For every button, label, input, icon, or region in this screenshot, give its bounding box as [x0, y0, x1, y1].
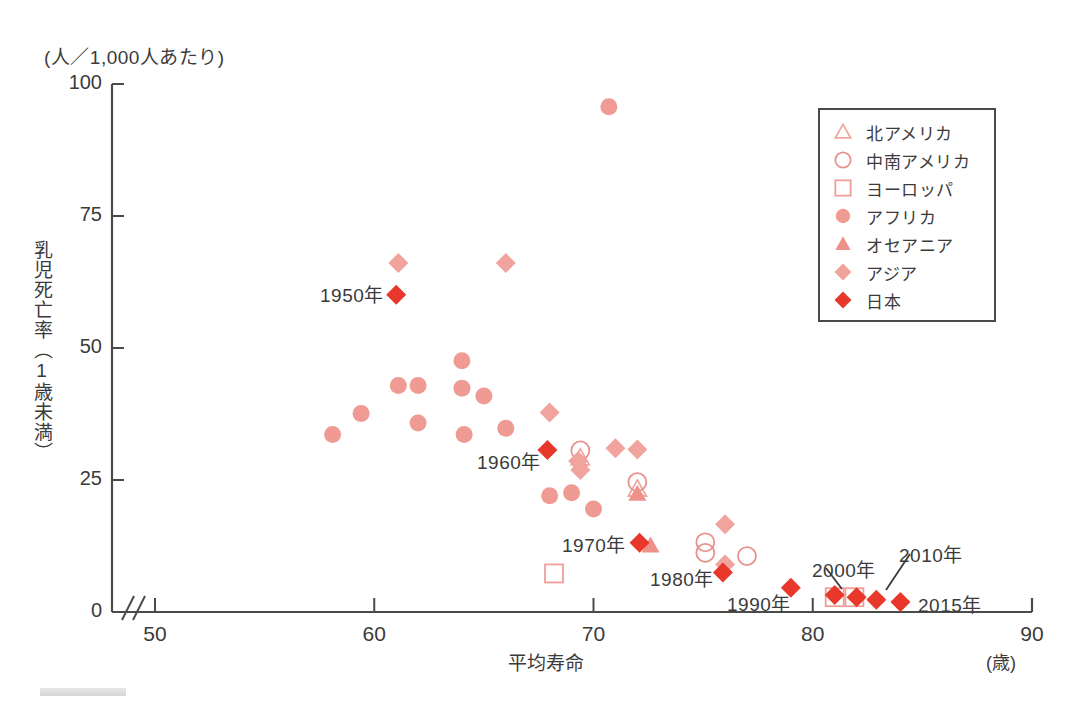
year-annotation-label: 1980年	[650, 564, 714, 591]
year-annotation-label: 1960年	[477, 447, 541, 474]
legend-item-2[interactable]: ヨーロッパ	[820, 174, 998, 202]
scatter-chart: (人／1,000人あたり) 乳児死亡率（1歳未満） 平均寿命 (歳) 02550…	[0, 0, 1091, 703]
data-point-circle-filled	[353, 405, 370, 422]
legend: 北アメリカ中南アメリカヨーロッパアフリカオセアニアアジア日本	[818, 108, 996, 322]
year-annotation-label: 1990年	[727, 589, 791, 616]
square-open-marker	[545, 564, 563, 582]
data-point-diamond-filled	[627, 439, 647, 459]
data-point-triangle-filled	[835, 236, 850, 250]
legend-item-label: アフリカ	[866, 204, 936, 229]
circle-filled-marker	[456, 426, 473, 443]
diamond-japan-marker	[866, 590, 886, 610]
legend-item-6[interactable]: 日本	[820, 286, 998, 314]
axis-break-slash-2	[133, 596, 145, 620]
data-point-triangle-open	[835, 124, 850, 138]
circle-filled-marker	[453, 352, 470, 369]
legend-item-label: 中南アメリカ	[866, 148, 970, 173]
data-point-diamond-filled	[715, 514, 735, 534]
legend-marker-icon	[820, 119, 866, 145]
data-point-circle-filled	[836, 209, 850, 223]
scan-artifact-bar	[40, 688, 126, 696]
legend-marker-icon	[820, 175, 866, 201]
year-annotation-label: 2015年	[918, 590, 982, 617]
data-point-circle-open	[696, 533, 714, 551]
y-tick-label: 50	[42, 335, 102, 358]
data-point-circle-filled	[456, 426, 473, 443]
legend-marker-icon	[820, 203, 866, 229]
data-point-circle-filled	[390, 377, 407, 394]
data-point-diamond-japan	[386, 285, 406, 305]
data-point-diamond-japan	[835, 292, 852, 309]
y-tick-label: 75	[42, 203, 102, 226]
legend-item-label: オセアニア	[866, 232, 954, 257]
triangle-open-marker	[835, 124, 850, 138]
diamond-japan-marker	[835, 292, 852, 309]
data-point-circle-filled	[563, 484, 580, 501]
circle-open-marker	[696, 544, 714, 562]
circle-open-marker	[835, 152, 850, 167]
x-tick-label: 60	[344, 622, 404, 646]
diamond-filled-marker	[605, 438, 625, 458]
legend-item-5[interactable]: アジア	[820, 258, 998, 286]
circle-filled-marker	[324, 426, 341, 443]
legend-item-1[interactable]: 中南アメリカ	[820, 146, 998, 174]
data-point-diamond-filled	[540, 402, 560, 422]
year-annotation-label: 1950年	[320, 280, 384, 307]
circle-filled-marker	[410, 377, 427, 394]
data-point-diamond-filled	[835, 264, 852, 281]
y-tick-label: 0	[42, 599, 102, 622]
circle-filled-marker	[410, 414, 427, 431]
triangle-filled-marker	[835, 236, 850, 250]
diamond-filled-marker	[388, 253, 408, 273]
legend-item-3[interactable]: アフリカ	[820, 202, 998, 230]
circle-open-marker	[738, 547, 756, 565]
legend-marker-icon	[820, 259, 866, 285]
circle-filled-marker	[353, 405, 370, 422]
data-point-diamond-filled	[605, 438, 625, 458]
year-annotation-label: 1970年	[562, 530, 626, 557]
diamond-filled-marker	[715, 514, 735, 534]
year-annotation-label: 2000年	[812, 555, 876, 582]
legend-item-label: ヨーロッパ	[866, 176, 954, 201]
square-open-marker	[835, 180, 850, 195]
legend-item-label: アジア	[866, 260, 918, 285]
data-point-circle-filled	[600, 98, 617, 115]
legend-marker-icon	[820, 147, 866, 173]
data-point-circle-filled	[497, 420, 514, 437]
data-point-circle-open	[738, 547, 756, 565]
legend-item-0[interactable]: 北アメリカ	[820, 118, 998, 146]
circle-filled-marker	[585, 501, 602, 518]
data-point-diamond-filled	[496, 253, 516, 273]
data-point-square-open	[545, 564, 563, 582]
data-point-diamond-japan	[866, 590, 886, 610]
circle-filled-marker	[600, 98, 617, 115]
x-tick-label: 90	[1002, 622, 1062, 646]
circle-filled-marker	[497, 420, 514, 437]
legend-item-4[interactable]: オセアニア	[820, 230, 998, 258]
data-point-diamond-filled	[388, 253, 408, 273]
axis-break-slash-1	[122, 596, 134, 620]
data-point-circle-filled	[453, 380, 470, 397]
legend-item-label: 北アメリカ	[866, 120, 953, 145]
x-tick-label: 70	[564, 622, 624, 646]
data-point-circle-filled	[410, 377, 427, 394]
data-point-circle-open	[835, 152, 850, 167]
circle-filled-marker	[390, 377, 407, 394]
data-point-diamond-japan	[890, 592, 910, 612]
data-point-circle-filled	[410, 414, 427, 431]
diamond-filled-marker	[496, 253, 516, 273]
x-tick-label: 50	[125, 622, 185, 646]
circle-filled-marker	[453, 380, 470, 397]
year-annotation-label: 2010年	[899, 540, 963, 567]
data-point-circle-filled	[324, 426, 341, 443]
circle-filled-marker	[541, 487, 558, 504]
diamond-japan-marker	[890, 592, 910, 612]
data-point-circle-open	[696, 544, 714, 562]
diamond-japan-marker	[386, 285, 406, 305]
series-diamond-filled	[388, 253, 735, 574]
diamond-filled-marker	[540, 402, 560, 422]
x-tick-label: 80	[783, 622, 843, 646]
data-point-square-open	[835, 180, 850, 195]
data-point-circle-filled	[585, 501, 602, 518]
circle-filled-marker	[563, 484, 580, 501]
